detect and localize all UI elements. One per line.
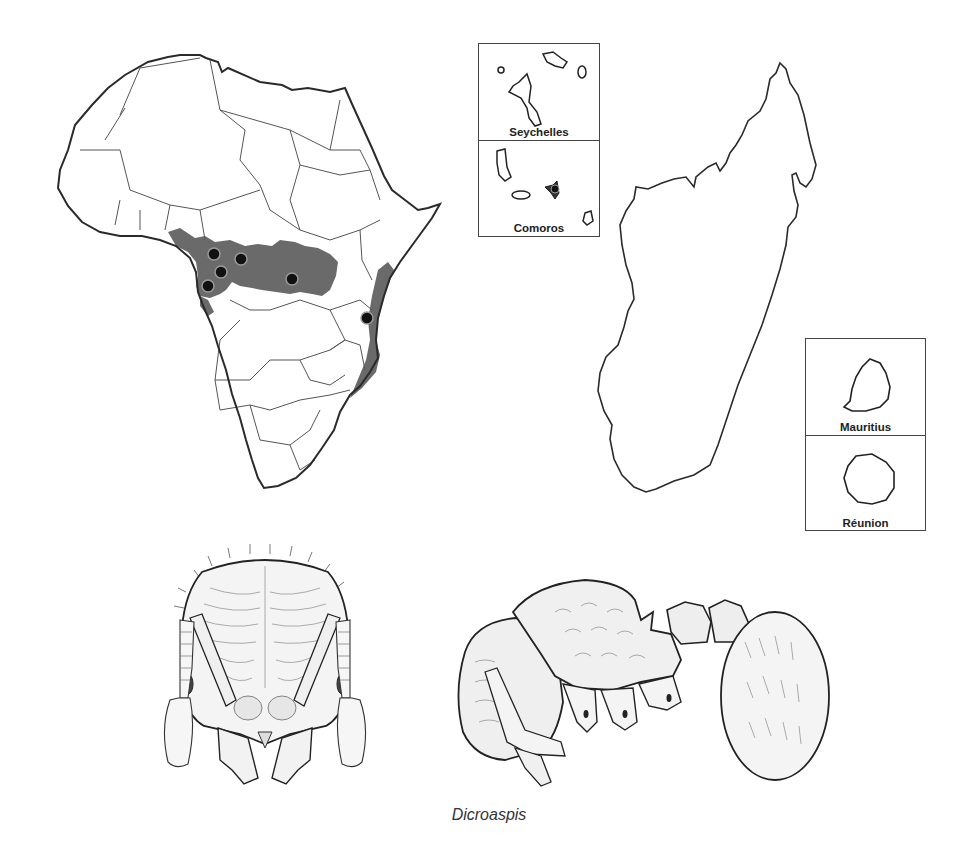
comoros-label: Comoros xyxy=(479,222,599,234)
record-dot xyxy=(215,266,227,278)
mauritius-island xyxy=(806,339,926,419)
figure-caption: Dicroaspis xyxy=(0,806,978,824)
left-antennal-club xyxy=(164,698,192,767)
africa-map-svg xyxy=(50,50,450,490)
record-dot xyxy=(551,185,559,193)
seychelles-islands xyxy=(479,44,599,124)
inset-seychelles-comoros: Seychelles Comoros xyxy=(478,43,600,237)
madagascar-outline xyxy=(598,63,816,492)
ant-head-illustration xyxy=(140,548,390,788)
ant-body-illustration xyxy=(445,572,845,792)
madagascar-outline-svg xyxy=(590,55,830,505)
ant-body-svg xyxy=(445,572,845,792)
comoros-islands xyxy=(479,141,599,221)
africa-map xyxy=(50,50,450,490)
inset-reunion: Réunion xyxy=(806,435,925,531)
distribution-range xyxy=(168,228,394,398)
record-dot xyxy=(208,248,220,260)
petiole xyxy=(667,602,711,644)
record-dot xyxy=(286,273,298,285)
record-dot xyxy=(361,312,373,324)
inset-mauritius-reunion: Mauritius Réunion xyxy=(805,338,926,531)
ant-head-svg xyxy=(140,548,390,788)
right-antennal-club xyxy=(337,698,365,767)
seychelles-label: Seychelles xyxy=(479,126,599,138)
inset-mauritius: Mauritius xyxy=(806,339,925,435)
record-dot xyxy=(202,280,214,292)
reunion-island xyxy=(806,436,926,516)
mauritius-label: Mauritius xyxy=(806,421,925,433)
record-dot xyxy=(235,253,247,265)
reunion-label: Réunion xyxy=(806,517,925,529)
inset-comoros: Comoros xyxy=(479,140,599,236)
madagascar-map xyxy=(590,55,830,505)
inset-seychelles: Seychelles xyxy=(479,44,599,140)
